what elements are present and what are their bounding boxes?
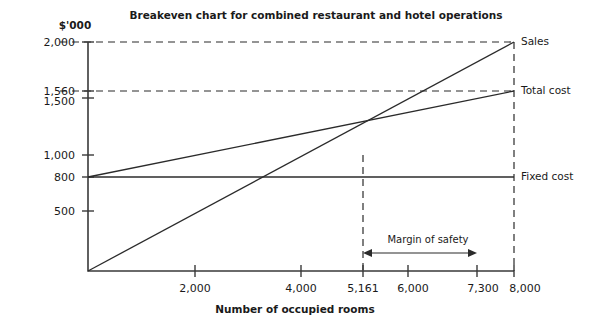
y-tick-label-800: 800: [54, 171, 75, 184]
series-label-total-cost: Total cost: [520, 84, 571, 96]
series-label-fixed-cost: Fixed cost: [521, 170, 573, 182]
total-cost-line: [88, 91, 514, 177]
y-tick-label-2000: 2,000: [44, 36, 76, 49]
y-tick-label-1000: 1,000: [44, 149, 76, 162]
margin-of-safety-arrowhead-right: [468, 249, 477, 257]
y-axis-unit-label: $'000: [59, 19, 91, 31]
margin-of-safety-label: Margin of safety: [387, 234, 468, 245]
x-axis-title: Number of occupied rooms: [215, 303, 374, 315]
y-tick-label-1500: 1,500: [44, 95, 76, 108]
chart-canvas: Breakeven chart for combined restaurant …: [0, 0, 597, 324]
x-tick-label-6000: 6,000: [397, 282, 429, 295]
series-label-sales: Sales: [521, 35, 549, 47]
x-tick-label-5161: 5,161: [347, 282, 379, 295]
x-tick-label-8000: 8,000: [509, 282, 541, 295]
x-tick-label-4000: 4,000: [285, 282, 317, 295]
margin-of-safety-arrowhead-left: [363, 249, 372, 257]
breakeven-chart-figure: Breakeven chart for combined restaurant …: [0, 0, 597, 324]
x-tick-label-2000: 2,000: [179, 282, 211, 295]
y-tick-label-500: 500: [54, 205, 75, 218]
x-tick-label-7300: 7,300: [467, 282, 499, 295]
chart-title: Breakeven chart for combined restaurant …: [130, 9, 503, 21]
